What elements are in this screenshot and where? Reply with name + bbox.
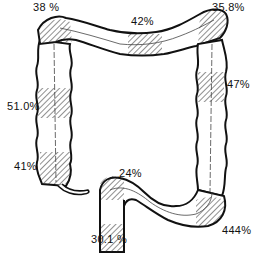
hatched-segment-cecum [40, 152, 70, 184]
label-35-8-percent: 35.8% [212, 1, 245, 13]
hatched-segment-ascending [38, 88, 70, 118]
colon-illustration [0, 0, 261, 256]
hatched-segment-splenic-flexure [198, 10, 227, 44]
descending-colon [196, 40, 227, 196]
label-444-percent: 444% [222, 224, 251, 236]
ascending-colon [36, 40, 89, 195]
label-42-percent: 42% [131, 15, 154, 27]
label-24-percent: 24% [119, 167, 142, 179]
label-38-percent: 38 % [33, 1, 59, 13]
colon-diagram: 38 % 42% 35.8% 47% 51.0% 41% 24% 30.1 % … [0, 0, 261, 256]
label-30-1-percent: 30.1 % [91, 233, 127, 245]
label-47-percent: 47% [227, 78, 250, 90]
label-41-percent: 41% [14, 160, 37, 172]
appendix [58, 184, 89, 195]
label-51-0-percent: 51.0% [7, 100, 40, 112]
